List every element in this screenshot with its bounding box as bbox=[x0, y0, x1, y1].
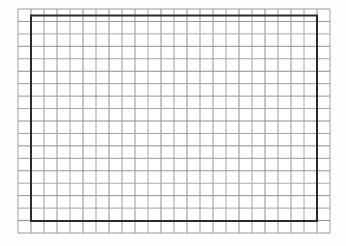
graph-paper-figure bbox=[0, 0, 346, 246]
grid-lines bbox=[18, 9, 330, 233]
worksheet-canvas bbox=[0, 0, 346, 246]
